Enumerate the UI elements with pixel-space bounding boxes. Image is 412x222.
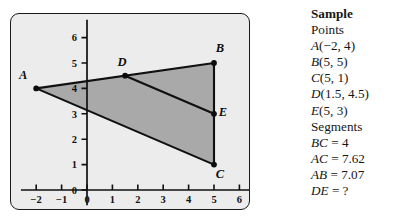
y-axis-tick-label: 4	[72, 83, 78, 94]
segment-name: AB	[311, 167, 327, 182]
y-axis-tick-label: 6	[72, 32, 77, 43]
segment-entry: DE = ?	[311, 183, 411, 199]
sample-heading: Sample	[311, 6, 411, 22]
point-marker-E	[211, 111, 217, 117]
segment-value: = 7.62	[328, 151, 365, 166]
segment-value: = 7.07	[327, 167, 364, 182]
x-axis-tick-label: 3	[161, 194, 166, 205]
coordinate-plane-svg: −2−101234560123456ABCDE	[10, 13, 250, 210]
segment-value: = 4	[328, 135, 349, 150]
x-axis-tick-label: 5	[211, 194, 216, 205]
y-axis-tick-label: 3	[72, 109, 77, 120]
x-axis-tick-label: 2	[135, 194, 140, 205]
point-marker-D	[122, 73, 128, 79]
point-entry: C(5, 1)	[311, 70, 411, 86]
point-name: D	[311, 86, 321, 101]
x-axis-tick-label: 4	[186, 194, 192, 205]
y-axis-tick-label: 0	[72, 185, 77, 196]
point-label-A: A	[18, 68, 27, 82]
y-axis-tick-label: 5	[72, 58, 77, 69]
y-axis-tick-label: 1	[72, 159, 77, 170]
sample-text-column: Sample Points A(−2, 4) B(5, 5) C(5, 1) D…	[311, 6, 411, 199]
segment-name: DE	[311, 183, 329, 198]
point-name: B	[311, 54, 319, 69]
point-marker-B	[211, 60, 217, 66]
point-coords: (1.5, 4.5)	[321, 86, 369, 101]
point-coords: (5, 3)	[319, 103, 348, 118]
x-axis-tick-label: 6	[237, 194, 242, 205]
point-entry: D(1.5, 4.5)	[311, 86, 411, 102]
point-entry: B(5, 5)	[311, 54, 411, 70]
points-heading: Points	[311, 22, 411, 38]
x-axis-tick-label: −1	[56, 194, 67, 205]
geometry-figure: −2−101234560123456ABCDE Sample Points A(…	[0, 0, 412, 222]
point-name: E	[311, 103, 319, 118]
point-entry: E(5, 3)	[311, 103, 411, 119]
segment-entry: BC = 4	[311, 135, 411, 151]
point-label-C: C	[216, 167, 225, 181]
segment-name: AC	[311, 151, 328, 166]
point-coords: (5, 1)	[320, 70, 349, 85]
point-entry: A(−2, 4)	[311, 38, 411, 54]
x-axis-tick-label: 0	[84, 194, 89, 205]
y-axis-tick-label: 2	[72, 134, 77, 145]
segment-entry: AB = 7.07	[311, 167, 411, 183]
point-coords: (5, 5)	[319, 54, 348, 69]
x-axis-tick-label: 1	[110, 194, 115, 205]
x-axis-tick-label: −2	[31, 194, 42, 205]
point-marker-A	[33, 86, 39, 92]
segment-entry: AC = 7.62	[311, 151, 411, 167]
coordinate-plane-panel: −2−101234560123456ABCDE	[10, 13, 250, 210]
segment-name: BC	[311, 135, 328, 150]
point-label-D: D	[117, 55, 127, 69]
point-label-E: E	[218, 105, 227, 119]
segment-value: = ?	[329, 183, 349, 198]
point-name: C	[311, 70, 320, 85]
point-label-B: B	[215, 41, 224, 55]
point-name: A	[311, 38, 319, 53]
point-coords: (−2, 4)	[319, 38, 355, 53]
segments-heading: Segments	[311, 119, 411, 135]
